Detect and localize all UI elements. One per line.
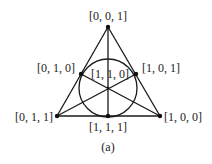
label-bottom-mid: [1, 1, 1] (89, 120, 127, 134)
point-bottom-left (55, 114, 59, 118)
point-bottom-right (158, 114, 162, 118)
label-right-mid: [1, 0, 1] (142, 61, 180, 75)
point-center (107, 87, 109, 89)
point-left-mid (79, 72, 83, 76)
label-top: [0, 0, 1] (89, 9, 127, 23)
fano-plane-diagram: [0, 0, 1] [0, 1, 0] [1, 0, 1] [1, 1, 0] … (0, 0, 212, 164)
label-bottom-left: [0, 1, 1] (15, 110, 53, 124)
label-left-mid: [0, 1, 0] (37, 61, 75, 75)
point-bottom-mid (106, 114, 110, 118)
point-right-mid (134, 72, 138, 76)
figure-caption: (a) (101, 140, 114, 154)
point-top (106, 25, 110, 29)
label-center: [1, 1, 0] (91, 67, 129, 81)
label-bottom-right: [1, 0, 0] (164, 110, 202, 124)
